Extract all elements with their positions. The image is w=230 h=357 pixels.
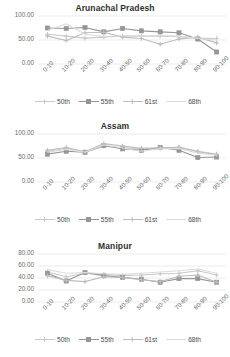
legend-item[interactable]: 50th xyxy=(35,98,70,105)
legend-item[interactable]: 50th xyxy=(35,216,70,223)
legend-label: 55th xyxy=(101,336,114,343)
x-axis-labels: 0-1010-2020-3030-4040-5050-6060-7070-808… xyxy=(38,186,226,216)
legend-key-icon xyxy=(123,98,143,105)
chart-legend: 50th55th61st68th xyxy=(0,336,230,343)
chart-panel: Assam0.0050.00100.000-1010-2020-3030-404… xyxy=(0,118,230,238)
y-axis-labels: 0.0050.00100.00 xyxy=(0,14,36,62)
y-tick-label: 40.00 xyxy=(18,273,34,280)
legend-key-icon xyxy=(79,216,99,223)
y-tick-label: 60.00 xyxy=(18,261,34,268)
legend-label: 68th xyxy=(188,216,201,223)
x-axis-labels: 0-1010-2020-3030-4040-5050-6060-7070-808… xyxy=(38,306,226,336)
legend-label: 55th xyxy=(101,216,114,223)
y-tick-label: 50.00 xyxy=(18,153,34,160)
y-axis-labels: 0.0050.00100.00 xyxy=(0,132,36,180)
legend-key-icon xyxy=(123,336,143,343)
plot-area: 0.0050.00100.00 xyxy=(0,14,230,68)
chart-panel: Manipur0.0020.0040.0060.0080.000-1010-20… xyxy=(0,238,230,357)
y-tick-label: 100.00 xyxy=(15,129,34,136)
y-tick-label: 0.00 xyxy=(22,177,34,184)
chart-title: Arunachal Pradesh xyxy=(0,0,230,14)
x-axis-labels: 0-1010-2020-3030-4040-5050-6060-7070-808… xyxy=(38,68,226,98)
plot-area: 0.0020.0040.0060.0080.00 xyxy=(0,252,230,306)
chart-title: Assam xyxy=(0,118,230,132)
legend-item[interactable]: 50th xyxy=(35,336,70,343)
legend-item[interactable]: 68th xyxy=(166,216,201,223)
legend-item[interactable]: 61st xyxy=(123,98,157,105)
legend-item[interactable]: 61st xyxy=(123,336,157,343)
y-tick-label: 100.00 xyxy=(15,11,34,18)
y-tick-label: 50.00 xyxy=(18,35,34,42)
plot-area: 0.0050.00100.00 xyxy=(0,132,230,186)
legend-label: 50th xyxy=(57,216,70,223)
legend-key-icon xyxy=(35,216,55,223)
y-tick-label: 20.00 xyxy=(18,285,34,292)
legend-label: 50th xyxy=(57,336,70,343)
legend-key-icon xyxy=(35,98,55,105)
legend-item[interactable]: 61st xyxy=(123,216,157,223)
legend-key-icon xyxy=(166,216,186,223)
legend-item[interactable]: 68th xyxy=(166,336,201,343)
legend-label: 55th xyxy=(101,98,114,105)
legend-item[interactable]: 55th xyxy=(79,216,114,223)
legend-item[interactable]: 55th xyxy=(79,98,114,105)
legend-key-icon xyxy=(79,98,99,105)
chart-title: Manipur xyxy=(0,238,230,252)
legend-label: 61st xyxy=(145,98,157,105)
legend-item[interactable]: 68th xyxy=(166,98,201,105)
chart-panel: Arunachal Pradesh0.0050.00100.000-1010-2… xyxy=(0,0,230,118)
legend-label: 61st xyxy=(145,216,157,223)
y-tick-label: 0.00 xyxy=(22,297,34,304)
figure-root: Arunachal Pradesh0.0050.00100.000-1010-2… xyxy=(0,0,230,357)
y-axis-labels: 0.0020.0040.0060.0080.00 xyxy=(0,252,36,300)
chart-legend: 50th55th61st68th xyxy=(0,216,230,223)
legend-key-icon xyxy=(166,98,186,105)
legend-key-icon xyxy=(123,216,143,223)
y-tick-label: 0.00 xyxy=(22,59,34,66)
legend-label: 68th xyxy=(188,98,201,105)
legend-key-icon xyxy=(166,336,186,343)
legend-key-icon xyxy=(79,336,99,343)
legend-item[interactable]: 55th xyxy=(79,336,114,343)
legend-key-icon xyxy=(35,336,55,343)
chart-legend: 50th55th61st68th xyxy=(0,98,230,105)
legend-label: 68th xyxy=(188,336,201,343)
legend-label: 50th xyxy=(57,98,70,105)
legend-label: 61st xyxy=(145,336,157,343)
y-tick-label: 80.00 xyxy=(18,249,34,256)
